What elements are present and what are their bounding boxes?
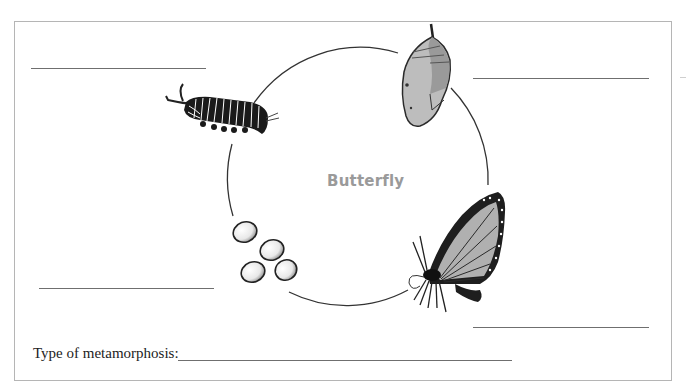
answer-line-chrysalis[interactable] (473, 78, 649, 79)
diagram-title: Butterfly (327, 172, 404, 190)
answer-line-caterpillar[interactable] (31, 68, 206, 69)
answer-line-butterfly[interactable] (473, 327, 649, 328)
metamorphosis-label: Type of metamorphosis: (33, 345, 179, 362)
butterfly-icon (409, 192, 505, 312)
answer-line-eggs[interactable] (39, 288, 214, 289)
answer-line-metamorphosis[interactable] (178, 360, 512, 361)
caterpillar-icon (166, 84, 279, 134)
eggs-icon (230, 218, 300, 285)
life-cycle-diagram (0, 0, 690, 390)
chrysalis-icon (402, 24, 450, 126)
